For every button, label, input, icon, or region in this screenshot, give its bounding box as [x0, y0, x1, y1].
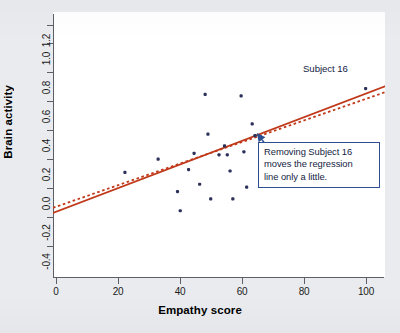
annotation-callout-box: Removing Subject 16 moves the regression…	[258, 142, 380, 188]
scatter-point	[123, 171, 126, 174]
subject-16-label: Subject 16	[303, 63, 348, 74]
annotation-line-2: moves the regression	[264, 158, 374, 170]
scatter-point	[364, 87, 367, 90]
scatter-point	[198, 183, 201, 186]
annotation-line-1: Removing Subject 16	[264, 146, 374, 158]
scatter-point	[245, 186, 248, 189]
scatter-point	[206, 133, 209, 136]
annotation-line-3: line only a little.	[264, 171, 374, 183]
scatter-point	[187, 168, 190, 171]
scatter-point	[231, 197, 234, 200]
scatter-point	[253, 134, 256, 137]
chart-figure: Brain activity Empathy score -0.4 -0.2 0…	[0, 0, 400, 333]
scatter-point	[228, 169, 231, 172]
scatter-point	[193, 152, 196, 155]
scatter-point	[157, 158, 160, 161]
scatter-point	[217, 153, 220, 156]
scatter-point	[204, 93, 207, 96]
scatter-point	[242, 150, 245, 153]
scatter-point	[176, 190, 179, 193]
scatter-point	[179, 209, 182, 212]
scatter-point	[223, 144, 226, 147]
scatter-point	[240, 94, 243, 97]
scatter-point	[209, 197, 212, 200]
scatter-point	[251, 122, 254, 125]
scatter-point	[226, 153, 229, 156]
